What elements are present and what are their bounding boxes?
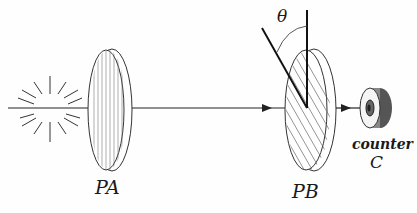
polarization-diagram: θ PA PB counter C: [0, 0, 417, 213]
diagram-canvas: [0, 0, 417, 213]
angle-arc: [277, 26, 307, 52]
angle-label: θ: [277, 6, 287, 26]
polarizer-b-disc: [230, 40, 374, 180]
counter-label: counter: [352, 136, 413, 152]
polarizer-b-label: PB: [292, 180, 319, 202]
light-source-icon: [18, 76, 82, 142]
arrow-head-icon: [262, 104, 272, 112]
polarizer-a-label: PA: [95, 176, 120, 198]
polarizer-a-disc: [88, 40, 132, 180]
counter-letter-label: C: [370, 152, 383, 172]
counter-detector-icon: [360, 88, 392, 128]
arrow-head-icon: [341, 104, 351, 112]
